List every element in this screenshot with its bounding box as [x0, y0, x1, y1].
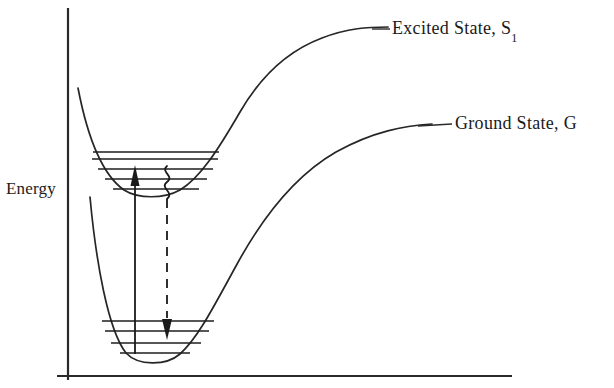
- emission-arrow: [162, 199, 172, 340]
- excited-state-curve: [78, 27, 388, 197]
- vibrational-relaxation-squiggle: [165, 166, 170, 199]
- potential-energy-diagram: Energy Excited State, S1 Ground State, G: [0, 0, 614, 388]
- ground-state-curve-label: Ground State, G: [455, 113, 577, 134]
- excited-state-vibrational-levels: [92, 152, 219, 189]
- emission-arrowhead-down: [162, 319, 172, 340]
- squiggle-path: [165, 166, 170, 199]
- ground-state-curve-group: [90, 124, 432, 363]
- diagram-canvas: [0, 0, 614, 388]
- excited-state-curve-group: [78, 27, 388, 197]
- excited-state-curve-label: Excited State, S1: [392, 18, 518, 39]
- label-leader-lines: [372, 29, 452, 126]
- ground-state-curve: [90, 124, 432, 363]
- absorption-arrowhead-up: [131, 165, 140, 186]
- excited-state-label-subscript: 1: [511, 31, 517, 45]
- excited-state-label-text: Excited State, S: [392, 18, 511, 38]
- ground-state-label-text: Ground State, G: [455, 113, 577, 133]
- ground-state-vibrational-levels: [102, 321, 214, 353]
- y-axis-label: Energy: [6, 179, 56, 199]
